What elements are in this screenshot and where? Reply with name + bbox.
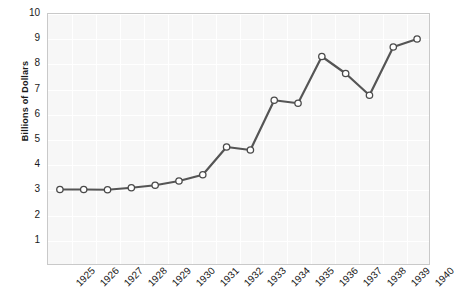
y-tick-label: 1 <box>18 235 40 245</box>
x-tick-label: 1940 <box>433 265 456 289</box>
x-tick-label: 1936 <box>337 265 361 289</box>
data-point-marker <box>128 185 134 191</box>
series-polyline <box>60 39 417 190</box>
x-tick-label: 1926 <box>97 265 121 289</box>
data-point-marker <box>319 53 325 59</box>
data-point-marker <box>81 186 87 192</box>
data-point-marker <box>247 147 253 153</box>
plot-area <box>47 13 430 265</box>
y-tick-label: 2 <box>18 210 40 220</box>
y-tick-label: 4 <box>18 159 40 169</box>
data-point-marker <box>57 186 63 192</box>
data-point-marker <box>342 70 348 76</box>
data-point-marker <box>271 97 277 103</box>
data-point-marker <box>295 100 301 106</box>
x-tick-label: 1927 <box>121 265 145 289</box>
data-point-marker <box>366 92 372 98</box>
y-tick-label: 6 <box>18 109 40 119</box>
data-point-marker <box>176 178 182 184</box>
x-tick-label: 1930 <box>193 265 217 289</box>
x-tick-label: 1933 <box>265 265 289 289</box>
x-tick-label: 1925 <box>73 265 97 289</box>
y-axis-tick-labels: 12345678910 <box>18 13 40 253</box>
data-point-marker <box>200 172 206 178</box>
y-tick-label: 10 <box>18 8 40 18</box>
y-tick-label: 7 <box>18 84 40 94</box>
x-tick-label: 1939 <box>409 265 433 289</box>
x-tick-label: 1935 <box>313 265 337 289</box>
y-tick-label: 5 <box>18 134 40 144</box>
x-tick-label: 1929 <box>169 265 193 289</box>
y-tick-label: 8 <box>18 58 40 68</box>
x-axis-tick-labels: 1925192619271928192919301931193219331934… <box>0 265 443 307</box>
x-tick-label: 1938 <box>385 265 409 289</box>
data-series-line <box>48 14 429 264</box>
data-point-marker <box>104 187 110 193</box>
y-tick-label: 9 <box>18 33 40 43</box>
x-tick-label: 1931 <box>217 265 241 289</box>
x-tick-label: 1932 <box>241 265 265 289</box>
y-tick-label: 3 <box>18 184 40 194</box>
chart-title-clipped <box>0 0 443 4</box>
data-point-marker <box>414 36 420 42</box>
x-tick-label: 1937 <box>361 265 385 289</box>
data-point-marker <box>390 44 396 50</box>
data-point-marker <box>152 182 158 188</box>
data-point-marker <box>223 144 229 150</box>
x-tick-label: 1928 <box>145 265 169 289</box>
x-tick-label: 1934 <box>289 265 313 289</box>
